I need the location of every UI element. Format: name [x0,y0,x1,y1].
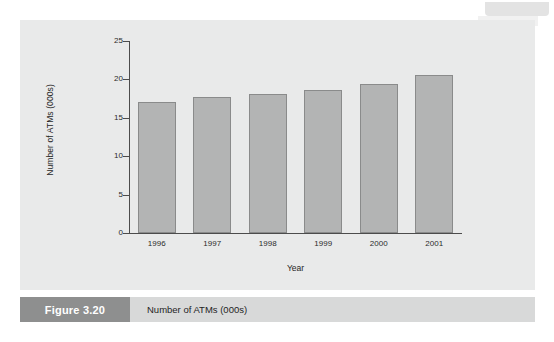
y-axis-line [129,41,130,234]
y-tick-label: 5 [99,191,123,199]
y-tick-mark [123,233,129,234]
bar [193,97,231,233]
y-tick-label-wrap: 15 [90,114,123,122]
x-axis-line [129,233,462,234]
y-tick-label: 10 [99,152,123,160]
y-tick-label-wrap: 5 [90,191,123,199]
y-tick-label: 25 [99,37,123,45]
y-tick-label: 20 [99,75,123,83]
x-tick-label: 2001 [404,239,464,248]
x-tick-label: 1997 [182,239,242,248]
y-axis-title: Number of ATMs (000s) [45,65,55,195]
bar [249,94,287,233]
y-tick-mark [123,79,129,80]
y-tick-label-wrap: 25 [90,37,123,45]
y-tick-label-wrap: 20 [90,75,123,83]
bar [360,84,398,233]
bar [138,102,176,233]
x-axis-title: Year [129,263,462,273]
page-corner-tab [485,2,549,16]
bar [304,90,342,233]
bar-chart-plot-area: 0510152025 199619971998199920002001 Numb… [20,20,535,290]
y-tick-mark [123,118,129,119]
y-tick-label: 0 [99,229,123,237]
figure-number-label: Figure 3.20 [45,304,105,316]
bar [415,75,453,233]
x-tick-label: 1998 [238,239,298,248]
figure-caption-label: Number of ATMs (000s) [130,297,535,322]
y-tick-label-wrap: 10 [90,152,123,160]
figure-caption-bar: Figure 3.20 Number of ATMs (000s) [20,297,535,322]
figure-panel: 0510152025 199619971998199920002001 Numb… [20,20,535,290]
y-tick-mark [123,41,129,42]
x-tick-label: 1999 [293,239,353,248]
y-tick-label: 15 [99,114,123,122]
figure-number-box: Figure 3.20 [20,297,130,322]
x-tick-label: 2000 [349,239,409,248]
x-tick-label: 1996 [127,239,187,248]
y-tick-mark [123,195,129,196]
y-tick-label-wrap: 0 [90,229,123,237]
y-tick-mark [123,156,129,157]
